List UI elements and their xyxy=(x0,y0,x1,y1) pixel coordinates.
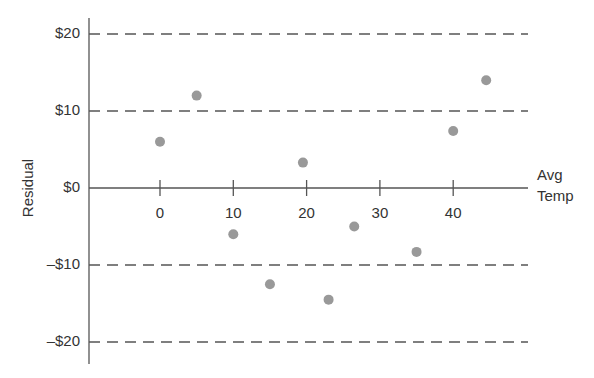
data-point xyxy=(448,126,458,136)
data-points xyxy=(155,75,491,304)
y-tick-label: $10 xyxy=(55,101,80,118)
x-tick-label: 30 xyxy=(372,204,389,221)
y-axis-title: Residual xyxy=(19,159,36,217)
data-point xyxy=(192,91,202,101)
data-point xyxy=(228,229,238,239)
x-axis-title-line1: Avg xyxy=(537,166,563,183)
residual-scatter-plot: 010203040 $20$10$0–$10–$20 Residual Avg … xyxy=(0,0,594,378)
x-axis-title: Avg Temp xyxy=(537,166,574,204)
y-tick-label: –$10 xyxy=(47,255,80,272)
y-tick-label: –$20 xyxy=(47,332,80,349)
x-tick-label: 10 xyxy=(225,204,242,221)
data-point xyxy=(155,137,165,147)
data-point xyxy=(481,75,491,85)
x-tick-label: 40 xyxy=(445,204,462,221)
data-point xyxy=(349,222,359,232)
y-tick-label: $20 xyxy=(55,24,80,41)
axes xyxy=(89,18,528,364)
data-point xyxy=(298,158,308,168)
x-tick-label: 0 xyxy=(156,204,164,221)
y-tick-labels: $20$10$0–$10–$20 xyxy=(47,24,80,349)
data-point xyxy=(412,247,422,257)
x-ticks: 010203040 xyxy=(156,180,462,221)
x-tick-label: 20 xyxy=(298,204,315,221)
x-axis-title-line2: Temp xyxy=(537,187,574,204)
y-tick-label: $0 xyxy=(63,178,80,195)
data-point xyxy=(265,279,275,289)
data-point xyxy=(324,295,334,305)
